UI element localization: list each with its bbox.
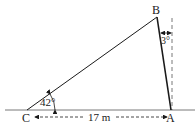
angle-label-b: 3° [161,36,170,46]
vertex-label-c: C [22,112,30,124]
base-length-label: 17 m [88,112,110,123]
vertex-label-a: A [166,112,175,124]
side-ba [157,17,171,110]
vertex-label-b: B [152,4,160,16]
angle-label-c: 42° [40,97,55,108]
